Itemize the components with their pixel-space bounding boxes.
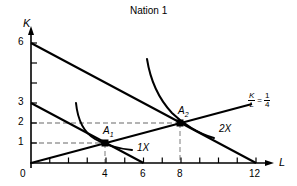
- y-axis-label: K: [23, 18, 30, 29]
- ratio-fraction-kl: K L: [248, 92, 255, 110]
- y-tick-label-2: 2: [18, 117, 24, 127]
- point-marker-a1: [102, 140, 109, 147]
- x-tick-label-8: 8: [177, 169, 183, 179]
- point-label-a2-sub: 2: [185, 111, 189, 118]
- ratio-fraction-value: 1 4: [264, 92, 270, 110]
- point-label-a1: A1: [103, 126, 114, 138]
- y-tick-label-3: 3: [18, 97, 24, 107]
- y-tick-label-1: 1: [18, 137, 24, 147]
- figure-nation-1: Nation 1 K L 6 3 2 1 0 4 6 8 12 A1 A2 1X…: [0, 0, 297, 186]
- x-axis-arrowhead: [265, 160, 274, 166]
- isoquant-label-1x: 1X: [137, 143, 149, 153]
- x-tick-label-6: 6: [140, 169, 146, 179]
- y-axis-ticks: [31, 43, 37, 143]
- x-tick-label-12: 12: [249, 169, 260, 179]
- origin-label: 0: [20, 169, 26, 179]
- point-label-a1-sub: 1: [110, 131, 114, 138]
- ratio-equals-sign: =: [257, 96, 262, 105]
- isoquant-label-2x: 2X: [219, 124, 231, 134]
- ratio-value-denominator: 4: [264, 101, 270, 109]
- point-label-a2: A2: [178, 106, 189, 118]
- x-axis-ticks: [50, 158, 256, 164]
- x-tick-label-4: 4: [102, 169, 108, 179]
- ratio-annotation: K L = 1 4: [248, 92, 270, 110]
- chart-title: Nation 1: [130, 6, 167, 16]
- point-marker-a2: [177, 120, 184, 127]
- x-axis-label: L: [279, 157, 285, 168]
- point-label-a1-base: A: [103, 125, 110, 136]
- ratio-denominator-l: L: [248, 101, 254, 109]
- point-label-a2-base: A: [178, 105, 185, 116]
- y-tick-label-6: 6: [18, 37, 24, 47]
